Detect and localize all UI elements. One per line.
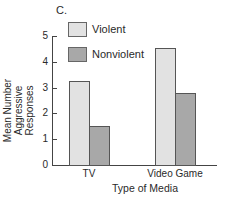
- bar-video-game-nonviolent: [175, 93, 196, 166]
- bar-video-game-violent: [155, 48, 176, 166]
- legend-label-nonviolent: Nonviolent: [92, 48, 144, 60]
- y-axis-label-line1: Mean Number Aggressive: [2, 56, 24, 166]
- x-tick-video-game: Video Game: [145, 168, 205, 179]
- y-tick-label: 0: [34, 159, 48, 170]
- y-tick-mark: [52, 62, 57, 63]
- y-tick-mark: [52, 88, 57, 89]
- y-tick-label: 5: [34, 30, 48, 41]
- legend-swatch-nonviolent: [68, 47, 87, 62]
- x-tick-tv: TV: [69, 168, 109, 179]
- y-tick-mark: [52, 165, 57, 166]
- panel-label: C.: [56, 4, 67, 16]
- y-axis-label-line2: Responses: [24, 56, 35, 166]
- x-axis-label: Type of Media: [95, 182, 195, 194]
- y-axis-line: [52, 36, 53, 166]
- y-tick-label: 1: [34, 133, 48, 144]
- y-tick-label: 4: [34, 56, 48, 67]
- legend-swatch-violent: [68, 22, 87, 37]
- bar-tv-violent: [69, 81, 90, 166]
- y-tick-mark: [52, 139, 57, 140]
- legend-label-violent: Violent: [92, 23, 125, 35]
- y-tick-mark: [52, 36, 57, 37]
- y-tick-label: 3: [34, 82, 48, 93]
- y-tick-mark: [52, 113, 57, 114]
- bar-tv-nonviolent: [89, 126, 110, 166]
- y-axis-label: Mean Number Aggressive Responses: [2, 56, 35, 166]
- y-tick-label: 2: [34, 107, 48, 118]
